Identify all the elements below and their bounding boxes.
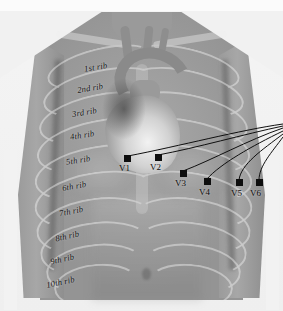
- electrode-v4[interactable]: [204, 178, 211, 185]
- lead-wire-1: [128, 124, 283, 156]
- electrode-v1[interactable]: [124, 155, 131, 162]
- electrode-label-v1: V1: [119, 163, 130, 173]
- lead-wire-3: [183, 128, 283, 171]
- ecg-lead-wires: [0, 0, 283, 311]
- electrode-v6[interactable]: [256, 179, 263, 186]
- electrode-label-v5: V5: [231, 188, 242, 198]
- electrode-label-v3: V3: [175, 178, 186, 188]
- lead-wire-5: [239, 134, 283, 180]
- electrode-label-v2: V2: [150, 162, 161, 172]
- electrode-v3[interactable]: [180, 170, 187, 177]
- ecg-electrode-placement-figure: 1st rib2nd rib3rd rib4th rib5th rib6th r…: [0, 0, 283, 311]
- electrode-v2[interactable]: [155, 154, 162, 161]
- electrode-label-v4: V4: [199, 187, 210, 197]
- electrode-v5[interactable]: [236, 179, 243, 186]
- electrode-label-v6: V6: [250, 188, 261, 198]
- lead-wire-4: [207, 131, 283, 179]
